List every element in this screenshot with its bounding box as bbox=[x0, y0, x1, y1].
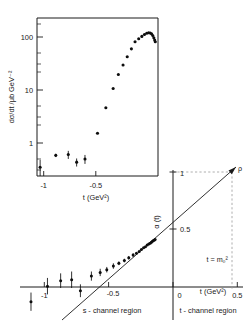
regge-trajectory-plot: 0.5 1 α (t) -1 -0.5 0 0.5 t (GeV²) ρ t =… bbox=[20, 164, 243, 320]
inset-data-point bbox=[137, 37, 140, 40]
inset-data-point bbox=[54, 154, 57, 157]
inset-x-axis-title: t (GeV²) bbox=[83, 193, 109, 202]
cross-section-inset-plot: 100 10 1 dσ/dt /μb GeV⁻² -1 -0.5 t (GeV²… bbox=[7, 18, 158, 202]
inset-data-point bbox=[134, 40, 137, 43]
trajectory-data-point bbox=[135, 252, 138, 255]
trajectory-xtick-neg1: -1 bbox=[41, 291, 48, 300]
figure-canvas: 100 10 1 dσ/dt /μb GeV⁻² -1 -0.5 t (GeV²… bbox=[0, 0, 248, 334]
inset-x-ticks bbox=[44, 171, 96, 176]
trajectory-data-point bbox=[29, 300, 32, 303]
trajectory-data-point bbox=[59, 279, 62, 282]
inset-ytick-1: 1 bbox=[29, 139, 33, 148]
inset-data-point bbox=[75, 161, 78, 164]
trajectory-data-point bbox=[127, 256, 130, 259]
trajectory-data-point bbox=[132, 254, 135, 257]
trajectory-x-axis-title: t (GeV²) bbox=[200, 287, 226, 296]
inset-data-point bbox=[117, 73, 120, 76]
inset-data-point bbox=[67, 153, 70, 156]
trajectory-data-point bbox=[90, 275, 93, 278]
trajectory-xtick-05: 0.5 bbox=[232, 291, 242, 300]
trajectory-data-point bbox=[154, 238, 157, 241]
inset-data-points bbox=[39, 31, 157, 176]
trajectory-xtick-0: 0 bbox=[178, 291, 182, 300]
inset-data-point bbox=[83, 157, 86, 160]
physics-figure: 100 10 1 dσ/dt /μb GeV⁻² -1 -0.5 t (GeV²… bbox=[0, 0, 248, 334]
inset-ytick-10: 10 bbox=[25, 86, 33, 95]
inset-xtick-neg05: -0.5 bbox=[89, 181, 102, 190]
trajectory-ytick-05: 0.5 bbox=[180, 225, 190, 234]
inset-y-axis-title: dσ/dt /μb GeV⁻² bbox=[7, 70, 16, 123]
trajectory-y-axis-title: α (t) bbox=[152, 215, 161, 228]
inset-data-point bbox=[104, 106, 107, 109]
inset-data-point bbox=[122, 63, 125, 66]
inset-data-point bbox=[126, 55, 129, 58]
trajectory-xtick-neg05: -0.5 bbox=[107, 289, 120, 298]
inset-data-point bbox=[96, 132, 99, 135]
trajectory-data-point bbox=[123, 259, 126, 262]
trajectory-data-point bbox=[70, 278, 73, 281]
inset-data-point bbox=[130, 47, 133, 50]
inset-data-point bbox=[154, 40, 157, 43]
trajectory-data-points bbox=[29, 238, 156, 311]
inset-xtick-neg1: -1 bbox=[40, 181, 47, 190]
trajectory-data-point bbox=[112, 265, 115, 268]
trajectory-data-point bbox=[105, 268, 108, 271]
trajectory-data-point bbox=[99, 271, 102, 274]
trajectory-data-point bbox=[117, 262, 120, 265]
inset-data-point bbox=[112, 87, 115, 90]
rho-particle-label: ρ bbox=[238, 164, 242, 173]
inset-axes-frame bbox=[37, 18, 158, 176]
rho-mass-annotation: t = m₀² bbox=[206, 255, 228, 264]
trajectory-data-point bbox=[46, 285, 49, 288]
s-channel-region-label: s - channel region bbox=[83, 306, 142, 315]
t-channel-region-label: t - channel region bbox=[179, 306, 236, 315]
inset-ytick-100: 100 bbox=[21, 33, 33, 42]
trajectory-ytick-1: 1 bbox=[180, 169, 184, 178]
inset-data-point bbox=[39, 166, 42, 169]
inset-y-ticks bbox=[37, 24, 43, 170]
inset-data-point bbox=[140, 35, 143, 38]
trajectory-data-point bbox=[79, 289, 82, 292]
